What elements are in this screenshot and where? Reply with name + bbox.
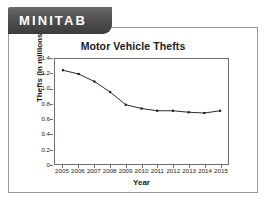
minitab-figure-card: MINITAB Motor Vehicle Thefts Thefts (in …: [8, 7, 258, 193]
y-tick-label: 1.0: [32, 85, 50, 91]
y-tick-mark: [50, 165, 53, 166]
y-tick-label: 0.4: [32, 131, 50, 137]
data-point: [140, 107, 142, 109]
data-point: [203, 112, 205, 114]
y-tick-mark: [50, 119, 53, 120]
y-tick-label: 1.4: [32, 55, 50, 61]
y-tick-mark: [50, 150, 53, 151]
data-point: [125, 104, 127, 106]
y-tick-label: 1.2: [32, 70, 50, 76]
x-axis-title: Year: [54, 178, 229, 187]
data-point: [188, 111, 190, 113]
data-point: [156, 110, 158, 112]
data-point: [219, 110, 221, 112]
y-tick-mark: [50, 73, 53, 74]
data-point: [172, 110, 174, 112]
minitab-banner: MINITAB: [8, 7, 112, 34]
y-tick-label: 0.6: [32, 116, 50, 122]
y-tick-mark: [50, 89, 53, 90]
y-tick-mark: [50, 134, 53, 135]
data-point: [78, 73, 80, 75]
x-axis-tick-labels: 2005200620072008200920102011201220132014…: [54, 168, 229, 178]
plot-area: [54, 58, 229, 165]
minitab-wordmark: MINITAB: [8, 14, 87, 27]
x-tick-label: 2015: [209, 168, 233, 174]
line-series-svg: [55, 59, 228, 164]
y-tick-mark: [50, 58, 53, 59]
y-axis-tick-labels: 1.41.21.00.80.60.40.20: [30, 58, 50, 165]
y-tick-label: 0.2: [32, 147, 50, 153]
data-point: [109, 91, 111, 93]
chart-panel: Motor Vehicle Thefts Thefts (in millions…: [8, 27, 258, 193]
thefts-markers: [62, 69, 221, 114]
y-tick-mark: [50, 104, 53, 105]
y-tick-label: 0: [32, 162, 50, 168]
thefts-line: [63, 70, 220, 113]
y-tick-label: 0.8: [32, 101, 50, 107]
data-point: [62, 69, 64, 71]
data-point: [93, 80, 95, 82]
chart-title: Motor Vehicle Thefts: [9, 40, 257, 52]
